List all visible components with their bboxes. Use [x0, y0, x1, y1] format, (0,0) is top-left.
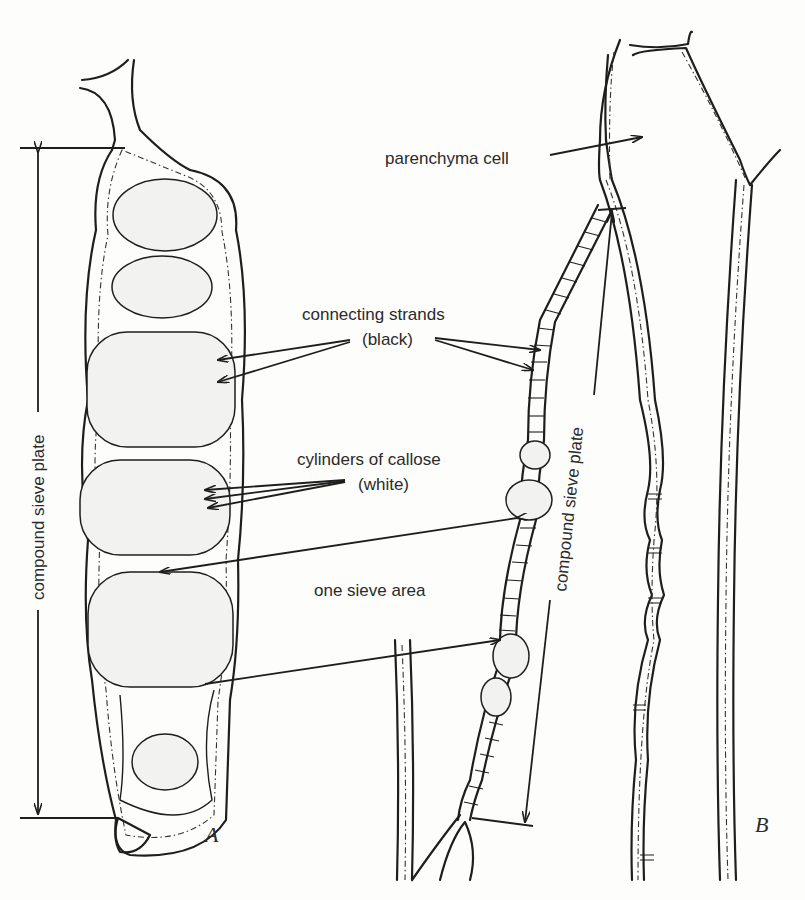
cell-wall — [80, 88, 115, 150]
cylinders-of-callose-sub-label: (white) — [358, 475, 409, 494]
sieve-tube-wall — [410, 640, 413, 880]
compound-sieve-plate-label-b: compound sieve plate — [551, 426, 587, 592]
wavy-wall — [600, 180, 652, 880]
compound-sieve-plate-label-a: compound sieve plate — [29, 435, 48, 600]
sieve-area-3 — [87, 332, 235, 447]
dimension-arrow-down-b — [525, 600, 550, 822]
parenchyma-cell-label: parenchyma cell — [385, 149, 509, 168]
panel-a: compound sieve plate A — [20, 60, 245, 856]
leader-strands-a2 — [218, 342, 350, 382]
sieve-plate-figure: compound sieve plate A — [0, 0, 805, 900]
parenchyma-wall — [633, 48, 780, 185]
middle-lamella — [682, 52, 746, 180]
middle-lamella — [606, 180, 657, 880]
cell-wall — [82, 60, 128, 80]
dimension-tick-bottom-b — [472, 818, 533, 826]
callose-bead — [506, 480, 552, 520]
sieve-area-1 — [113, 179, 217, 251]
callose-bead — [520, 441, 550, 469]
one-sieve-area-label: one sieve area — [314, 581, 426, 600]
leader-sieve-area-lower — [205, 640, 500, 684]
callose-bead — [481, 678, 511, 716]
leader-strands-a1 — [218, 340, 350, 360]
panel-label-a: A — [203, 822, 219, 847]
wavy-wall — [612, 180, 664, 880]
diagram-canvas: compound sieve plate A — [0, 0, 805, 900]
cylinders-of-callose-label: cylinders of callose — [297, 450, 441, 469]
sieve-area-2 — [112, 256, 212, 318]
middle-lamella — [402, 645, 406, 880]
panel-label-b: B — [755, 812, 768, 837]
sieve-area-6 — [132, 734, 198, 790]
sieve-area-4 — [80, 460, 230, 555]
connecting-strands-sub-label: (black) — [362, 330, 413, 349]
junction-wall — [412, 815, 460, 880]
parenchyma-wall — [630, 32, 692, 48]
sieve-tube-wall — [733, 185, 752, 880]
connecting-strands-label: connecting strands — [302, 305, 445, 324]
junction-wall — [440, 822, 473, 880]
leader-parenchyma — [550, 137, 642, 155]
cell-wall — [132, 60, 190, 170]
sieve-tube-wall — [395, 640, 398, 880]
sieve-area-5 — [88, 572, 233, 687]
